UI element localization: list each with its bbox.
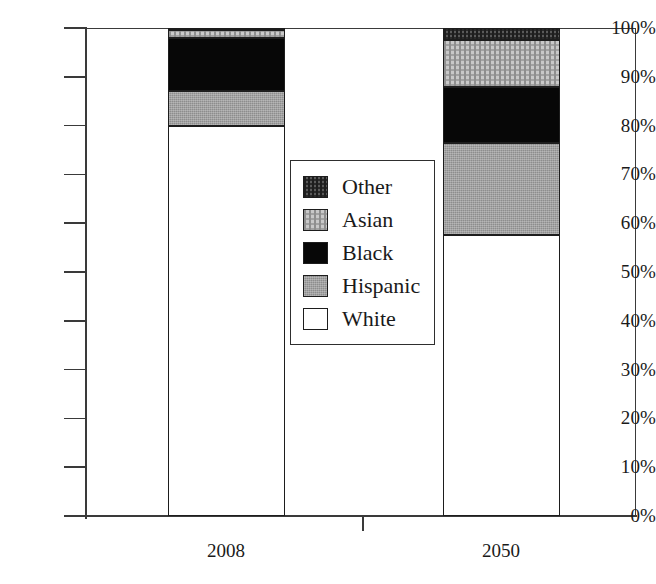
legend-item-other: Other — [303, 170, 420, 203]
legend-swatch-hispanic-icon — [303, 275, 328, 297]
bar-segment-2008-other — [168, 28, 285, 30]
legend-swatch-black-icon — [303, 242, 328, 264]
y-axis-label: 100% — [598, 18, 656, 37]
y-axis-tick — [64, 369, 86, 371]
bar-segment-2050-other — [443, 28, 560, 40]
y-axis-tick — [64, 466, 86, 468]
y-axis-label: 40% — [598, 311, 656, 330]
y-axis-label: 20% — [598, 408, 656, 427]
legend-item-white: White — [303, 302, 420, 335]
y-axis-label: 60% — [598, 213, 656, 232]
legend-item-asian: Asian — [303, 203, 420, 236]
y-axis-tick — [64, 174, 86, 176]
y-axis-line — [85, 27, 87, 519]
y-axis-label: 0% — [598, 506, 656, 525]
bar-segment-2050-hispanic — [443, 143, 560, 236]
y-axis-tick — [64, 125, 86, 127]
legend-label: Hispanic — [342, 275, 420, 297]
y-axis-tick — [64, 27, 86, 29]
bar-segment-2050-black — [443, 87, 560, 143]
y-axis-tick — [64, 271, 86, 273]
bar-2050 — [443, 28, 560, 516]
legend-swatch-white-icon — [303, 308, 328, 330]
bar-segment-2050-white — [443, 235, 560, 516]
legend-label: Other — [342, 176, 392, 198]
legend-label: Black — [342, 242, 393, 264]
legend-swatch-other-icon — [303, 176, 328, 198]
y-axis-label: 10% — [598, 457, 656, 476]
x-axis-label-2050: 2050 — [441, 540, 561, 562]
y-axis-tick — [64, 418, 86, 420]
stacked-bar-chart: 100%90%80%70%60%50%40%30%20%10%0% 200820… — [0, 0, 656, 584]
legend-item-black: Black — [303, 236, 420, 269]
bar-segment-2008-asian — [168, 30, 285, 37]
y-axis-tick — [64, 515, 86, 517]
bar-segment-2008-black — [168, 38, 285, 92]
bar-segment-2008-white — [168, 126, 285, 516]
bar-segment-2008-hispanic — [168, 91, 285, 125]
y-axis-label: 30% — [598, 360, 656, 379]
y-axis-tick — [64, 76, 86, 78]
legend-item-hispanic: Hispanic — [303, 269, 420, 302]
legend-label: White — [342, 308, 396, 330]
x-axis-label-2008: 2008 — [166, 540, 286, 562]
y-axis-tick — [64, 320, 86, 322]
y-axis-label: 90% — [598, 67, 656, 86]
y-axis-label: 70% — [598, 164, 656, 183]
legend-label: Asian — [342, 209, 393, 231]
x-axis-center-tick — [362, 517, 364, 531]
bar-2008 — [168, 28, 285, 516]
y-axis-label: 80% — [598, 116, 656, 135]
legend-swatch-asian-icon — [303, 209, 328, 231]
y-axis-tick — [64, 222, 86, 224]
y-axis-label: 50% — [598, 262, 656, 281]
chart-legend: OtherAsianBlackHispanicWhite — [290, 160, 435, 345]
bar-segment-2050-asian — [443, 40, 560, 86]
